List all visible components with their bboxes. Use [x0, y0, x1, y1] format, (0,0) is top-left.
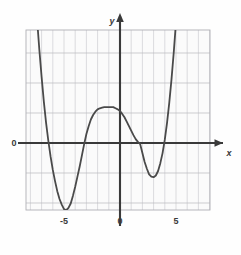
x-axis-label: x	[225, 148, 232, 158]
origin-label: 0	[11, 138, 16, 148]
x-tick-label-zero: 0	[117, 216, 122, 226]
graph-canvas: -5 0 5 0 y x	[0, 0, 241, 255]
x-tick-label-5: 5	[173, 216, 178, 226]
y-axis-label: y	[108, 16, 115, 26]
x-tick-label-minus5: -5	[60, 216, 68, 226]
figure-container: -5 0 5 0 y x	[0, 0, 241, 255]
plot-area-background	[26, 30, 210, 210]
